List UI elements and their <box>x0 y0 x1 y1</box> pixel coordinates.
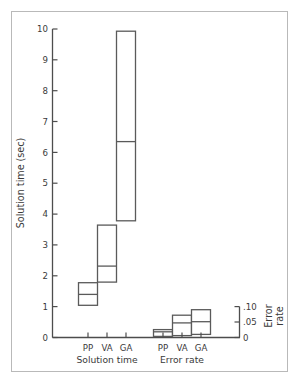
box-plot-chart: 0 1 2 3 4 5 6 7 8 9 10 Solution time (se… <box>0 0 301 385</box>
right-axis-ticks <box>235 307 240 338</box>
left-tick-label: 4 <box>43 209 48 219</box>
group-label-error-rate: Error rate <box>160 354 204 365</box>
group-label-solution-time: Solution time <box>76 354 137 365</box>
left-axis-title: Solution time (sec) <box>15 138 26 229</box>
left-tick-label: 7 <box>43 117 48 127</box>
category-label-va: VA <box>101 343 112 353</box>
left-tick-label: 9 <box>43 55 48 65</box>
right-axis-title-line1: Error <box>263 304 274 327</box>
group-solution-time: PP VA GA Solution time <box>76 31 137 365</box>
figure-canvas: 0 1 2 3 4 5 6 7 8 9 10 Solution time (se… <box>0 0 301 385</box>
right-tick-label: .10 <box>243 302 257 312</box>
left-tick-label: 5 <box>43 178 48 188</box>
category-label-ga: GA <box>195 343 208 353</box>
right-axis: 0 .05 .10 Error rate <box>235 302 286 343</box>
left-tick-label: 3 <box>43 240 48 250</box>
left-tick-label: 1 <box>43 302 48 312</box>
right-axis-tick-labels: 0 .05 .10 <box>243 302 257 343</box>
category-label-pp: PP <box>83 343 93 353</box>
left-tick-label: 8 <box>43 86 48 96</box>
left-tick-label: 2 <box>43 271 48 281</box>
left-tick-label: 0 <box>43 333 48 343</box>
x-ticks-solution-time <box>88 333 126 338</box>
right-tick-label: .05 <box>243 317 257 327</box>
right-tick-label: 0 <box>243 333 248 343</box>
x-labels-error-rate: PP VA GA <box>158 343 208 353</box>
x-labels-solution-time: PP VA GA <box>83 343 133 353</box>
box-solution-time-va <box>98 225 117 282</box>
category-label-ga: GA <box>120 343 133 353</box>
left-tick-label: 10 <box>37 24 48 34</box>
box-error-rate-ga <box>192 310 211 335</box>
box-solution-time-ga <box>117 31 136 221</box>
box-solution-time-pp <box>79 283 98 306</box>
left-axis-tick-labels: 0 1 2 3 4 5 6 7 8 9 10 <box>37 24 48 343</box>
right-axis-title-line2: rate <box>274 306 285 326</box>
category-label-pp: PP <box>158 343 168 353</box>
left-axis-ticks <box>53 29 58 338</box>
category-label-va: VA <box>176 343 187 353</box>
left-tick-label: 6 <box>43 148 48 158</box>
